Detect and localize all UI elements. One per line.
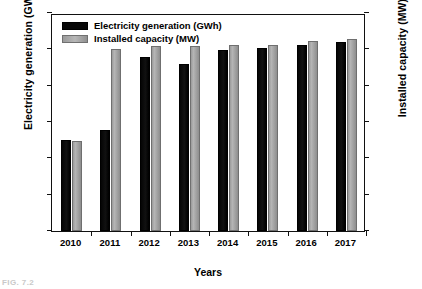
y-tick-right xyxy=(364,194,369,195)
bar-installed-capacity[interactable] xyxy=(151,46,161,231)
figure-caption: FIG. 7.2 xyxy=(2,278,34,287)
bar-electricity-generation[interactable] xyxy=(140,57,150,231)
bar-installed-capacity[interactable] xyxy=(111,49,121,231)
y-tick-right xyxy=(364,12,369,13)
x-tick xyxy=(327,231,328,236)
bar-electricity-generation[interactable] xyxy=(100,130,110,231)
x-tick xyxy=(366,231,367,236)
legend-label: Electricity generation (GWh) xyxy=(94,20,222,33)
y-tick-right xyxy=(364,157,369,158)
bar-installed-capacity[interactable] xyxy=(308,41,318,231)
y-tick-left xyxy=(47,157,52,158)
y-tick-left xyxy=(47,194,52,195)
legend-swatch-icon xyxy=(62,22,88,30)
x-axis-label: Years xyxy=(51,266,365,278)
bar-installed-capacity[interactable] xyxy=(229,45,239,231)
y-tick-right xyxy=(364,85,369,86)
bar-electricity-generation[interactable] xyxy=(179,64,189,231)
y-axis-left-label: Electricity generation (GWh) xyxy=(22,0,34,148)
bar-installed-capacity[interactable] xyxy=(190,46,200,231)
bar-electricity-generation[interactable] xyxy=(257,48,267,231)
x-tick xyxy=(170,231,171,236)
figure-container: Electricity generation (GWh) Installed c… xyxy=(0,0,422,289)
y-tick-right xyxy=(364,48,369,49)
bar-electricity-generation[interactable] xyxy=(218,50,228,231)
chart-legend: Electricity generation (GWh) Installed c… xyxy=(62,20,222,45)
bar-installed-capacity[interactable] xyxy=(347,39,357,231)
legend-item: Installed capacity (MW) xyxy=(62,33,222,46)
legend-item: Electricity generation (GWh) xyxy=(62,20,222,33)
x-tick xyxy=(91,231,92,236)
y-tick-left xyxy=(47,230,52,231)
legend-swatch-icon xyxy=(62,35,88,43)
y-tick-right xyxy=(364,121,369,122)
y-axis-right-label: Installed capacity (MW) xyxy=(396,0,408,148)
bar-installed-capacity[interactable] xyxy=(72,141,82,231)
legend-label: Installed capacity (MW) xyxy=(94,33,199,46)
plot-area: 020040060080010001200 010020030040050060… xyxy=(51,14,365,232)
x-tick xyxy=(288,231,289,236)
y-tick-left xyxy=(47,12,52,13)
x-tick xyxy=(131,231,132,236)
x-tick-label: 2017 xyxy=(322,237,368,248)
bar-installed-capacity[interactable] xyxy=(268,45,278,231)
y-tick-left xyxy=(47,121,52,122)
bar-electricity-generation[interactable] xyxy=(297,45,307,231)
bar-electricity-generation[interactable] xyxy=(61,140,71,231)
x-tick xyxy=(209,231,210,236)
bar-electricity-generation[interactable] xyxy=(336,42,346,231)
y-tick-left xyxy=(47,48,52,49)
x-tick xyxy=(248,231,249,236)
y-tick-left xyxy=(47,85,52,86)
